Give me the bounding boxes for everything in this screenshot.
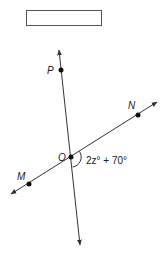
answer-box[interactable] bbox=[27, 11, 102, 26]
label-m: M bbox=[17, 171, 26, 182]
point-m bbox=[27, 182, 32, 187]
label-o: O bbox=[58, 152, 66, 163]
point-p bbox=[59, 68, 64, 73]
line-po bbox=[59, 50, 80, 245]
angle-diagram: P N O M 2z° + 70° bbox=[0, 0, 168, 259]
angle-arc bbox=[73, 152, 82, 168]
point-o bbox=[69, 155, 74, 160]
angle-label: 2z° + 70° bbox=[86, 155, 127, 166]
line-mn bbox=[11, 102, 157, 194]
point-n bbox=[136, 113, 141, 118]
label-p: P bbox=[47, 65, 54, 76]
label-n: N bbox=[128, 100, 136, 111]
